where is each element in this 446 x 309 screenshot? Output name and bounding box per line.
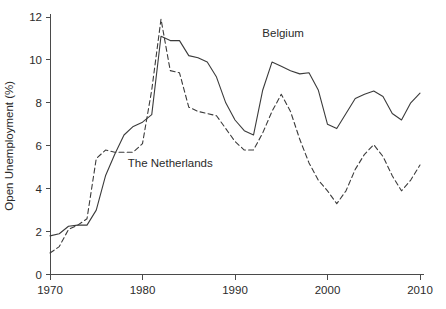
y-tick-label: 12 <box>29 11 42 23</box>
y-axis-title: Open Unemployment (%) <box>3 81 15 211</box>
x-axis-ticks: 19701980199020002010 <box>37 275 433 296</box>
y-tick-label: 4 <box>36 183 43 195</box>
x-tick-label: 1980 <box>130 284 156 296</box>
y-tick-label: 8 <box>36 97 42 109</box>
y-tick-label: 2 <box>36 226 42 238</box>
x-tick-label: 2000 <box>315 284 341 296</box>
chart-figure: 024681012 19701980199020002010 Open Unem… <box>0 0 446 309</box>
x-tick-label: 1970 <box>37 284 63 296</box>
line-chart: 024681012 19701980199020002010 Open Unem… <box>0 0 446 309</box>
x-tick-label: 2010 <box>407 284 433 296</box>
series-line-the-netherlands <box>50 19 420 253</box>
y-tick-label: 6 <box>36 140 42 152</box>
series-lines <box>50 19 420 253</box>
y-tick-label: 0 <box>36 269 42 281</box>
series-label-netherlands: The Netherlands <box>128 157 213 169</box>
y-axis-ticks: 024681012 <box>29 11 50 281</box>
series-line-belgium <box>50 36 420 236</box>
series-label-belgium: Belgium <box>262 27 304 39</box>
x-tick-label: 1990 <box>222 284 248 296</box>
y-tick-label: 10 <box>29 54 42 66</box>
